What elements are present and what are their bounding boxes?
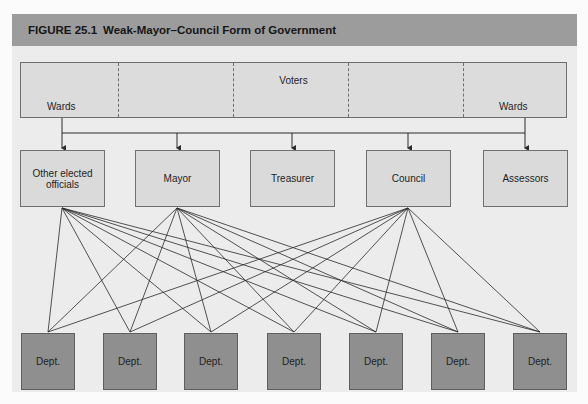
office-box-other-elected-officials: Other elected officials [20,150,105,207]
authority-line-council-dept-4 [294,208,408,332]
office-label: Mayor [164,173,192,184]
authority-line-mayor-dept-3 [177,208,211,332]
dept-label: Dept. [36,356,60,367]
dept-label: Dept. [528,356,552,367]
authority-line-council-dept-5 [376,208,408,332]
dept-label: Dept. [364,356,388,367]
dept-label: Dept. [118,356,142,367]
department-box: Dept. [184,333,238,390]
office-box-mayor: Mayor [135,150,220,207]
dept-label: Dept. [446,356,470,367]
dept-label: Dept. [199,356,223,367]
office-box-council: Council [366,150,451,207]
department-box: Dept. [349,333,403,390]
dept-label: Dept. [282,356,306,367]
authority-line-council-dept-1 [48,208,408,332]
authority-line-other-dept-1 [48,208,62,332]
department-box: Dept. [431,333,485,390]
authority-line-council-dept-7 [408,208,540,332]
office-box-assessors: Assessors [483,150,568,207]
authority-line-council-dept-2 [130,208,408,332]
department-box: Dept. [513,333,567,390]
office-label: Council [392,173,425,184]
authority-line-other-dept-3 [62,208,211,332]
office-label: Treasurer [271,173,314,184]
authority-line-council-dept-3 [211,208,408,332]
department-box: Dept. [267,333,321,390]
authority-line-other-dept-7 [62,208,540,332]
authority-line-mayor-dept-7 [177,208,540,332]
authority-line-mayor-dept-1 [48,208,177,332]
office-label: Assessors [502,173,548,184]
department-box: Dept. [21,333,75,390]
office-box-treasurer: Treasurer [250,150,335,207]
department-box: Dept. [103,333,157,390]
office-label: Other elected officials [28,168,98,190]
